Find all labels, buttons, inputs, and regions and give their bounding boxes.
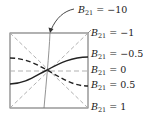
label-b21-neg10: B21 = −10 [78, 5, 127, 17]
label-b21-neg1: B21 = −1 [91, 28, 134, 40]
leader-arrow [51, 9, 74, 30]
label-b21-1: B21 = 1 [91, 102, 126, 114]
label-b21-0: B21 = 0 [91, 65, 126, 77]
arrowhead-icon [49, 28, 54, 34]
label-b21-neg05: B21 = −0.5 [91, 49, 143, 61]
label-b21-05: B21 = 0.5 [91, 80, 135, 92]
